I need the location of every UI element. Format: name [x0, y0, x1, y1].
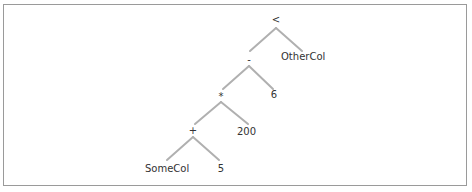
node-somecol: SomeCol	[145, 163, 189, 175]
edge-plus-five	[193, 137, 219, 160]
edge-lt-othercol	[276, 28, 302, 51]
edge-lt-minus	[250, 28, 276, 51]
edge-plus-somecol	[167, 137, 193, 160]
node-less-than: <	[272, 14, 280, 26]
node-five: 5	[218, 163, 224, 175]
edge-times-plus	[195, 102, 221, 124]
node-othercol: OtherCol	[281, 51, 325, 63]
edge-minus-six	[249, 66, 273, 89]
edge-times-200	[221, 102, 248, 124]
edge-minus-times	[223, 66, 249, 89]
node-plus: +	[189, 125, 197, 137]
node-200: 200	[237, 126, 256, 138]
node-minus: -	[247, 54, 251, 66]
tree-edges	[0, 0, 472, 192]
node-times: *	[219, 91, 224, 103]
node-six: 6	[271, 89, 277, 101]
